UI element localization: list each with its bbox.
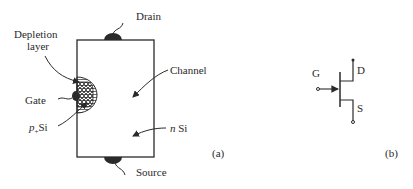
drain-terminal	[352, 59, 355, 62]
figure-a-caption: (a)	[212, 147, 225, 160]
source-label: Source	[136, 166, 167, 178]
drain-contact	[104, 33, 122, 40]
p-si-leader	[58, 103, 87, 126]
drain-lead	[113, 23, 123, 34]
source-symbol-label: S	[357, 102, 363, 114]
n-si-arrow	[133, 128, 166, 136]
drain-label: Drain	[136, 10, 162, 22]
drain-line	[340, 61, 353, 81]
depletion-arrow	[45, 56, 79, 82]
n-si-label: n Si	[170, 122, 187, 134]
source-line	[340, 100, 353, 121]
channel-arrow	[133, 70, 168, 97]
jfet-cross-section: Drain Source Gate Depletion layer p+Si C…	[14, 10, 225, 178]
gate-terminal	[317, 88, 320, 91]
depletion-label-line2: layer	[27, 40, 49, 52]
depletion-label-line1: Depletion	[14, 28, 58, 40]
gate-lead	[58, 98, 72, 99]
source-lead	[115, 163, 125, 175]
jfet-symbol: G D S (b)	[312, 59, 398, 161]
gate-label: Gate	[25, 94, 46, 106]
jfet-figure: Drain Source Gate Depletion layer p+Si C…	[0, 0, 413, 189]
drain-symbol-label: D	[357, 64, 365, 76]
figure-b-caption: (b)	[385, 147, 398, 160]
gate-contact	[72, 91, 80, 101]
gate-symbol-label: G	[312, 67, 320, 79]
source-terminal	[352, 121, 355, 124]
source-contact	[104, 157, 122, 164]
channel-label: Channel	[170, 64, 207, 76]
p-si-label: p+Si	[28, 121, 48, 136]
